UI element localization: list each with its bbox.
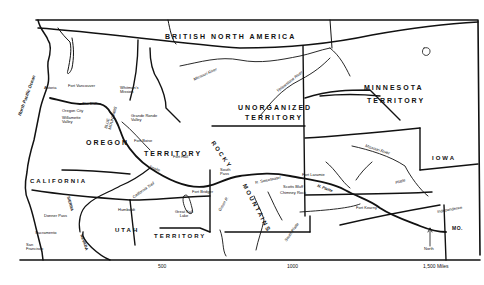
label-iowa: IOWA [432,155,456,161]
pacific-coastline [25,20,50,260]
label-sacramento: Sacramento [35,231,57,235]
bna-divider [168,20,176,44]
north-arrow-icon [428,228,432,246]
label-british-north-america: BRITISH NORTH AMERICA [165,33,296,40]
map-linework [0,0,484,285]
label-fort-vancouver: Fort Vancouver [68,84,95,88]
label-donner-pass: Donner Pass [44,214,67,218]
label-minnesota: MINNESOTA [364,84,423,91]
label-willamette-valley: Willamette Valley [62,116,87,124]
bna-divider-2 [330,20,332,48]
label-fort-bridger: Fort Bridger [192,190,213,194]
label-mo: MO. [452,226,463,231]
scale-tick-1000: 1000 [287,264,298,269]
label-oregon: OREGON [86,139,129,146]
label-the-dalles: The Dalles [82,102,101,106]
label-grande-ronde-valley: Grande Ronde Valley [131,114,159,122]
label-fort-boise: Fort Boise [134,139,152,143]
label-oregon-city: Oregon City [62,109,83,113]
label-astoria: Astoria [44,86,56,90]
label-scotts-bluff: Scotts Bluff [283,185,303,189]
label-fort-hall: Fort Hall [173,155,188,159]
label-chimney-rock: Chimney Rock [280,191,306,195]
label-unorganized: UNORGANIZED [238,104,312,111]
territorial-borders [32,40,478,260]
label-unorganized-territory: TERRITORY [245,114,303,121]
scale-tick-1500: 1,500 Miles [423,264,449,269]
label-san-francisco: San Francisco [26,243,42,251]
label-fort-kearny: Fort Kearny [356,206,377,210]
lake-minnesota [422,48,430,56]
label-south-pass: South Pass [220,168,234,176]
label-whitmans-mission: Whitman's Mission [120,86,138,94]
label-great-salt-lake: Great Salt Lake [174,210,194,218]
label-california: CALIFORNIA [30,178,87,184]
puget-sound [58,28,74,74]
label-minnesota-territory: TERRITORY [367,97,425,104]
label-north: North [424,247,434,251]
label-utah: UTAH [115,227,139,233]
label-humboldt: Humboldt [118,208,135,212]
label-utah-territory: TERRITORY [154,233,206,239]
scale-tick-500: 500 [158,264,166,269]
label-fort-laramie: Fort Laramie [302,173,325,177]
